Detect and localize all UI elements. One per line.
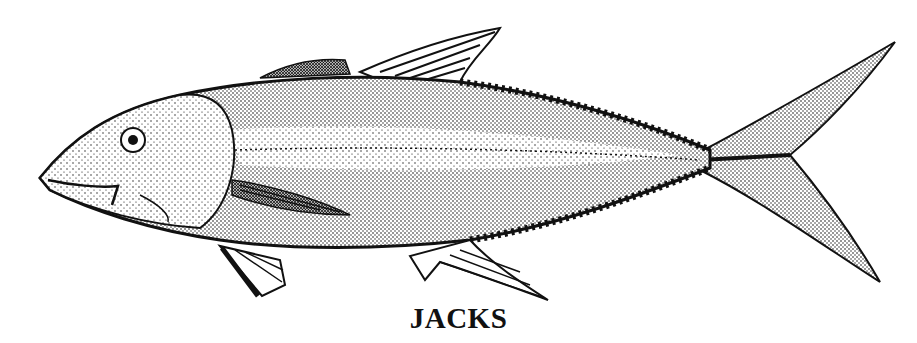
- first-dorsal-fin: [260, 60, 350, 78]
- anal-fin: [410, 240, 548, 300]
- caption-title: JACKS: [0, 302, 917, 335]
- pelvic-fin: [220, 246, 285, 296]
- fish-head: [40, 94, 234, 228]
- second-dorsal-fin: [360, 28, 500, 82]
- fish-illustration: [0, 0, 917, 343]
- tail-fin: [700, 42, 895, 282]
